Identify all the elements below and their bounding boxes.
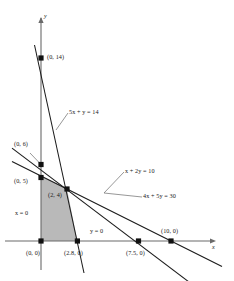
feasible-region-shading (41, 176, 77, 241)
point-label-10-0: (10, 0) (161, 228, 178, 234)
point-label-2-8-0: (2.8, 0) (64, 250, 83, 256)
marker-point-0-14 (38, 55, 43, 60)
leader-line-x-2y-10 (104, 172, 124, 193)
leader-line-4x-5y-30 (104, 193, 142, 197)
point-label-7-5-0: (7.5, 0) (126, 250, 145, 256)
point-label-0-14: (0, 14) (47, 54, 64, 60)
x-axis-label: x (212, 244, 215, 250)
marker-point-0-6 (38, 162, 43, 167)
marker-point-0-5 (38, 175, 43, 180)
plot-canvas (0, 0, 234, 281)
constraint-label-x-equals-0: x = 0 (15, 210, 28, 216)
point-label-2-4: (2, 4) (48, 192, 62, 198)
y-axis-label: y (44, 13, 47, 19)
leader-line-5x-y-14 (56, 113, 68, 130)
marker-point-0-0 (38, 238, 43, 243)
constraint-label-y-equals-0: y = 0 (90, 228, 103, 234)
constraint-label-x-plus-2y-10: x + 2y = 10 (125, 168, 155, 174)
marker-point-7-5-0 (136, 238, 141, 243)
y-axis-arrow (38, 17, 43, 23)
marker-point-10-0 (168, 238, 173, 243)
constraint-label-4x-plus-5y-30: 4x + 5y = 30 (143, 193, 176, 199)
point-label-0-5: (0, 5) (14, 178, 28, 184)
linear-programming-figure: y x (0, 14) (0, 6) (0, 5) (2, 4) (0, 0) … (0, 0, 234, 281)
point-label-0-6: (0, 6) (14, 141, 28, 147)
point-label-0-0: (0, 0) (26, 250, 40, 256)
constraint-label-5x-plus-y-14: 5x + y = 14 (69, 109, 99, 115)
marker-point-2-4 (64, 186, 69, 191)
constraint-line-4x-plus-5y-30 (12, 148, 189, 281)
marker-point-2-8-0 (75, 238, 80, 243)
